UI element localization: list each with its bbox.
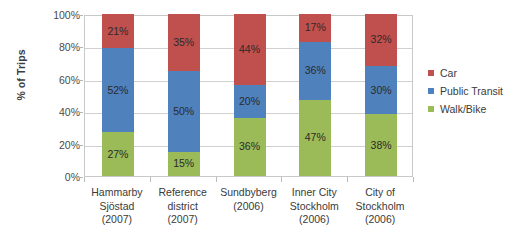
legend-item-walk-bike[interactable]: Walk/Bike [428,100,524,118]
bar-value-label: 35% [168,37,200,48]
y-axis-tick-label: 60% [40,75,80,86]
x-axis-category-label: City ofStockholm(2006) [344,186,416,227]
x-axis-category-label-line: (2006) [213,200,285,214]
bar-segment-public-transit[interactable]: 20% [234,85,266,117]
x-axis-tick-mark [216,177,217,182]
y-axis-tick-label: 100% [40,10,80,21]
y-axis-tick-mark [79,80,83,81]
x-axis-category-label-line: district [147,200,219,214]
stacked-bar[interactable]: 15%50%35% [168,16,200,176]
stacked-bar-chart: % of Trips 0%20%40%60%80%100% 27%52%21%1… [0,0,526,238]
x-axis-tick-mark [281,177,282,182]
bar-segment-walk-bike[interactable]: 15% [168,152,200,176]
x-axis-category-label-line: City of [344,186,416,200]
bar-series-container: 27%52%21%15%50%35%36%20%44%47%36%17%38%3… [85,16,412,176]
y-axis-tick-label: 40% [40,107,80,118]
y-axis-tick-labels: 0%20%40%60%80%100% [38,0,80,238]
legend-item-public-transit[interactable]: Public Transit [428,82,524,100]
bar-value-label: 52% [102,85,134,96]
y-axis-title: % of Trips [15,35,29,115]
bar-value-label: 47% [299,132,331,143]
stacked-bar[interactable]: 27%52%21% [102,16,134,176]
y-axis-tick-mark [79,47,83,48]
y-axis-tick-label: 0% [40,172,80,183]
bar-value-label: 44% [234,44,266,55]
bar-value-label: 38% [365,140,397,151]
bar-value-label: 15% [168,158,200,169]
bar-segment-car[interactable]: 17% [299,14,331,42]
bar-segment-car[interactable]: 44% [234,14,266,85]
x-axis-category-label-line: Sjöstad [81,200,153,214]
y-axis-tick-mark [79,177,83,178]
bar-value-label: 36% [234,141,266,152]
legend-label: Public Transit [440,86,503,97]
stacked-bar[interactable]: 47%36%17% [299,16,331,176]
plot-area: 27%52%21%15%50%35%36%20%44%47%36%17%38%3… [84,15,413,177]
x-axis-category-label-line: Stockholm [278,200,350,214]
legend-item-car[interactable]: Car [428,64,524,82]
bar-value-label: 21% [102,26,134,37]
bar-segment-walk-bike[interactable]: 36% [234,118,266,176]
y-axis-tick-mark [79,112,83,113]
y-axis-tick-mark [79,145,83,146]
x-axis-tick-marks [84,177,414,183]
x-axis-category-label-line: Stockholm [344,200,416,214]
bar-value-label: 30% [365,85,397,96]
bar-segment-public-transit[interactable]: 50% [168,71,200,152]
x-axis-category-label: Referencedistrict(2007) [147,186,219,227]
legend-color-swatch [428,106,434,112]
bar-segment-public-transit[interactable]: 52% [102,48,134,132]
bar-segment-public-transit[interactable]: 36% [299,42,331,100]
x-axis-category-label: HammarbySjöstad(2007) [81,186,153,227]
bar-value-label: 17% [299,22,331,33]
bar-value-label: 27% [102,149,134,160]
x-axis-category-label-line: Sundbyberg [213,186,285,200]
bar-segment-walk-bike[interactable]: 27% [102,132,134,176]
bar-segment-car[interactable]: 35% [168,14,200,71]
x-axis-tick-mark [347,177,348,182]
y-axis-tick-mark [79,15,83,16]
legend-color-swatch [428,88,434,94]
bar-value-label: 20% [234,96,266,107]
bar-segment-walk-bike[interactable]: 47% [299,100,331,176]
stacked-bar[interactable]: 38%30%32% [365,16,397,176]
x-axis-category-label-line: (2006) [344,213,416,227]
x-axis-tick-mark [150,177,151,182]
x-axis-category-label: Inner CityStockholm(2006) [278,186,350,227]
y-axis-tick-label: 20% [40,139,80,150]
bar-segment-walk-bike[interactable]: 38% [365,114,397,176]
bar-value-label: 32% [365,34,397,45]
bar-segment-car[interactable]: 21% [102,14,134,48]
bar-value-label: 50% [168,106,200,117]
legend: CarPublic TransitWalk/Bike [428,64,524,118]
legend-label: Car [440,68,457,79]
y-axis-tick-label: 80% [40,42,80,53]
x-axis-category-label-line: (2007) [81,213,153,227]
x-axis-category-label-line: Inner City [278,186,350,200]
x-axis-tick-labels: HammarbySjöstad(2007)Referencedistrict(2… [84,186,413,236]
x-axis-tick-mark [84,177,85,182]
legend-label: Walk/Bike [440,104,486,115]
x-axis-tick-mark [413,177,414,182]
x-axis-category-label-line: (2007) [147,213,219,227]
bar-segment-car[interactable]: 32% [365,14,397,66]
bar-segment-public-transit[interactable]: 30% [365,66,397,115]
legend-color-swatch [428,70,434,76]
x-axis-category-label-line: Hammarby [81,186,153,200]
x-axis-category-label: Sundbyberg(2006) [213,186,285,213]
x-axis-category-label-line: (2006) [278,213,350,227]
bar-value-label: 36% [299,65,331,76]
x-axis-category-label-line: Reference [147,186,219,200]
stacked-bar[interactable]: 36%20%44% [234,16,266,176]
